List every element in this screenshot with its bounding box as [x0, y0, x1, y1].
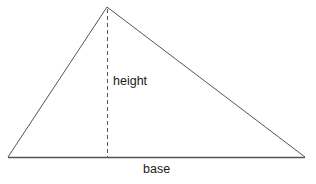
base-label: base — [143, 162, 170, 176]
left-side — [8, 7, 107, 157]
triangle-diagram: height base — [0, 0, 316, 184]
triangle — [8, 7, 305, 158]
height-label: height — [113, 74, 148, 88]
